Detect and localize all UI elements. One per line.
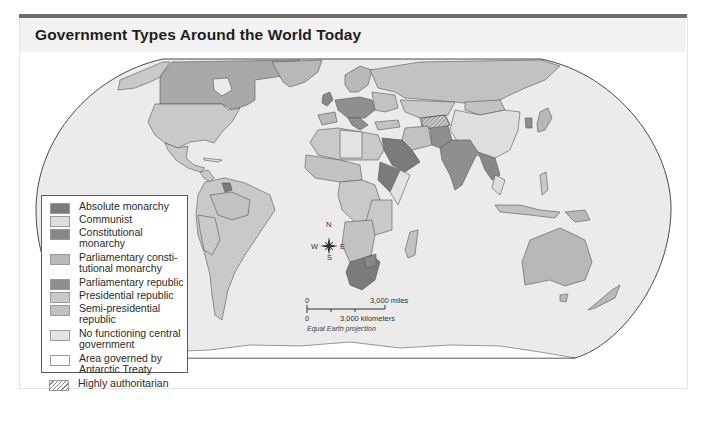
scale-km-zero: 0: [305, 314, 309, 323]
scale-miles-label: 3,000 miles: [370, 296, 408, 305]
legend-swatch: [50, 279, 70, 290]
legend-item-antarctic-treaty: Area governed by Antarctic Treaty: [50, 353, 185, 375]
legend-item-constitutional-monarchy: Constitutional monarchy: [50, 227, 185, 249]
legend-item-no-central-government: No functioning central government: [50, 328, 185, 350]
legend-swatch: [50, 203, 70, 214]
compass-n-label: N: [326, 220, 331, 229]
legend-swatch: [50, 216, 70, 227]
legend-item-highly-authoritarian: Highly authoritarian: [49, 378, 184, 391]
legend-item-semi-presidential-republic: Semi-presidential republic: [50, 303, 185, 325]
compass-w-label: W: [311, 242, 318, 251]
legend-swatch: [50, 292, 70, 303]
compass-s-label: S: [327, 253, 332, 262]
compass-e-label: E: [340, 242, 345, 251]
scale-km-label: 3,000 kilometers: [340, 314, 395, 323]
legend-swatch: [50, 254, 70, 265]
legend-item-parliamentary-constitutional-monarchy: Parliamentary consti-tutional monarchy: [50, 252, 185, 274]
legend-swatch: [50, 330, 70, 341]
projection-label: Equal Earth projection: [307, 325, 376, 332]
map-legend: Absolute monarchy Communist Constitution…: [41, 195, 188, 373]
scale-miles-zero: 0: [305, 296, 309, 305]
hatch-swatch-icon: [49, 380, 69, 391]
legend-swatch: [50, 229, 70, 240]
legend-swatch: [50, 305, 70, 316]
legend-swatch: [50, 355, 70, 366]
